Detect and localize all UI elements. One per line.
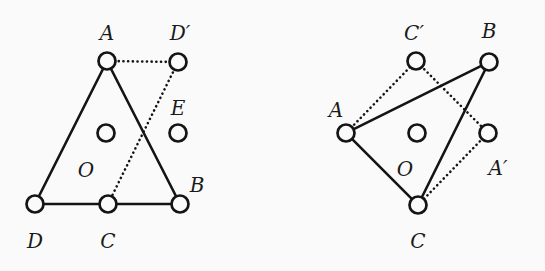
vertex-node-A bbox=[99, 53, 116, 70]
label-C: C bbox=[410, 229, 425, 253]
label-E: E bbox=[170, 96, 186, 120]
vertex-node-B bbox=[481, 54, 498, 71]
label-O: O bbox=[78, 158, 94, 182]
label-C: C bbox=[100, 229, 115, 253]
label-D: D bbox=[26, 229, 43, 253]
label-Cprime: C′ bbox=[404, 21, 424, 45]
vertex-node-Dprime bbox=[170, 54, 187, 71]
vertex-node-D bbox=[27, 196, 44, 213]
vertex-node-C bbox=[100, 196, 117, 213]
hole-circle-E bbox=[170, 125, 187, 142]
edge-Aprime-C-dotted bbox=[423, 138, 483, 200]
label-O: O bbox=[397, 157, 413, 181]
geometric-figure-canvas: OEAD′DCBOC′BAA′C bbox=[0, 0, 545, 271]
hole-circle-O bbox=[98, 125, 115, 142]
label-B: B bbox=[481, 19, 497, 43]
label-B: B bbox=[189, 173, 205, 197]
label-Aprime: A′ bbox=[487, 156, 508, 180]
edge-B-C-solid bbox=[421, 68, 486, 198]
edge-A-Dprime-dotted bbox=[114, 61, 171, 62]
label-A: A bbox=[98, 21, 114, 45]
vertex-node-C bbox=[410, 197, 427, 214]
label-Dprime: D′ bbox=[169, 21, 191, 45]
vertex-node-B bbox=[172, 196, 189, 213]
label-A: A bbox=[327, 98, 343, 122]
vertex-node-Cprime bbox=[408, 53, 425, 70]
edge-Cprime-Aprime-dotted bbox=[421, 66, 483, 128]
edge-A-B-solid bbox=[352, 65, 482, 130]
hole-circle-O bbox=[409, 125, 426, 142]
vertex-node-A bbox=[338, 125, 355, 142]
vertex-node-Aprime bbox=[480, 125, 497, 142]
edge-A-Cprime-dotted bbox=[351, 66, 411, 128]
